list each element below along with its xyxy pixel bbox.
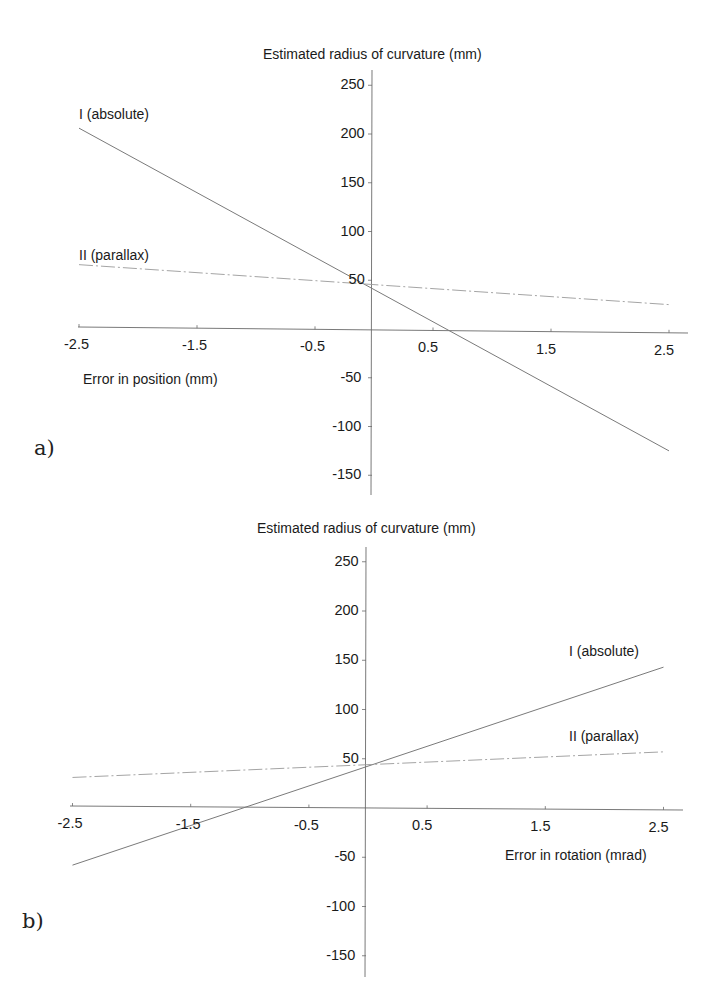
x-tick-label: 1.5 [536, 341, 556, 357]
series-line-parallax [73, 752, 664, 778]
y-tick-label: 250 [334, 553, 358, 569]
y-tick-label: -50 [340, 369, 361, 385]
x-axis-title-a: Error in position (mm) [83, 371, 218, 387]
x-axis-line [70, 806, 683, 810]
series-label-absolute-b: I (absolute) [569, 643, 639, 659]
series-line-parallax [79, 265, 669, 305]
y-tick-label: 100 [340, 223, 364, 239]
series-line-absolute [79, 128, 669, 451]
y-tick-label: 50 [343, 750, 359, 766]
y-tick-label: -50 [334, 848, 355, 864]
y-tick-label: 250 [340, 76, 364, 92]
y-tick-label: -150 [326, 947, 355, 963]
panel-letter-a: a) [34, 436, 55, 460]
x-axis-line [78, 327, 688, 333]
series-label-parallax-b: II (parallax) [569, 728, 639, 744]
y-tick-label: -100 [326, 898, 355, 914]
x-tick-label: 2.5 [649, 819, 669, 835]
x-tick-label: -0.5 [294, 817, 319, 833]
x-tick-label: -1.5 [176, 816, 201, 832]
x-tick-label: 0.5 [418, 339, 438, 355]
chart-panel-b: Estimated radius of curvature (mm) Error… [0, 505, 707, 982]
x-tick-label: 2.5 [654, 342, 674, 358]
chart-panel-a: Estimated radius of curvature (mm) Error… [0, 0, 707, 500]
y-tick-label: -150 [332, 466, 361, 482]
x-tick-label: -2.5 [64, 336, 89, 352]
y-tick-label: 50 [349, 271, 365, 287]
y-axis-title-a: Estimated radius of curvature (mm) [263, 46, 482, 62]
x-tick-label: -2.5 [58, 815, 83, 831]
panel-letter-b: b) [22, 909, 44, 933]
y-tick-label: 150 [340, 174, 364, 190]
x-tick-label: -0.5 [300, 338, 325, 354]
x-tick-label: 1.5 [530, 818, 550, 834]
y-tick-label: 200 [340, 125, 364, 141]
x-axis-title-b: Error in rotation (mrad) [505, 847, 647, 863]
series-line-absolute [73, 667, 664, 865]
y-axis-title-b: Estimated radius of curvature (mm) [257, 520, 476, 536]
x-tick-label: -1.5 [182, 337, 207, 353]
y-tick-label: 150 [334, 651, 358, 667]
x-tick-label: 0.5 [412, 817, 432, 833]
y-tick-label: -100 [332, 418, 361, 434]
y-tick-label: 100 [334, 701, 358, 717]
y-tick-label: 200 [334, 602, 358, 618]
series-label-parallax-a: II (parallax) [79, 247, 149, 263]
series-label-absolute-a: I (absolute) [79, 106, 149, 122]
y-axis-line [365, 547, 366, 977]
